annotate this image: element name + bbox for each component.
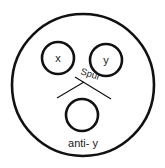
label-anti-y: anti- y: [68, 137, 98, 149]
label-x: x: [55, 52, 61, 64]
label-spur: Spur: [79, 65, 101, 82]
label-y: y: [103, 54, 109, 66]
outer-well: [12, 14, 154, 156]
precipitin-line-1: [57, 82, 84, 98]
well-anti-y: [66, 99, 98, 131]
antibody-diagram: x y Spur anti- y: [0, 0, 165, 168]
